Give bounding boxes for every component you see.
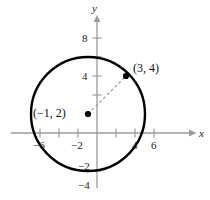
x-tick-label-4: 4 — [132, 140, 138, 151]
y-axis-arrow-icon — [94, 15, 101, 22]
y-tick-label-4: 4 — [82, 71, 88, 82]
circle-point-marker — [123, 73, 129, 79]
x-tick-label--6: −6 — [33, 140, 45, 151]
center-point-marker — [85, 111, 91, 117]
y-tick-label-8: 8 — [82, 33, 88, 44]
y-axis — [94, 15, 101, 188]
x-tick-label-6: 6 — [151, 140, 157, 151]
circle-point-label: (3, 4) — [133, 62, 159, 74]
center-point-label: (−1, 2) — [33, 107, 66, 119]
y-tick-label--4: −4 — [78, 180, 90, 191]
x-axis-name: x — [199, 128, 204, 139]
x-axis-arrow-icon — [189, 130, 197, 137]
plot-canvas — [0, 0, 210, 200]
circle-coordinate-figure: −6 −2 4 6 8 4 −2 −4 x y (−1, 2) (3, 4) — [0, 0, 210, 200]
x-axis — [11, 130, 197, 137]
y-tick-label--2: −2 — [78, 161, 90, 172]
x-tick-label--2: −2 — [71, 140, 83, 151]
y-axis-name: y — [92, 3, 97, 14]
